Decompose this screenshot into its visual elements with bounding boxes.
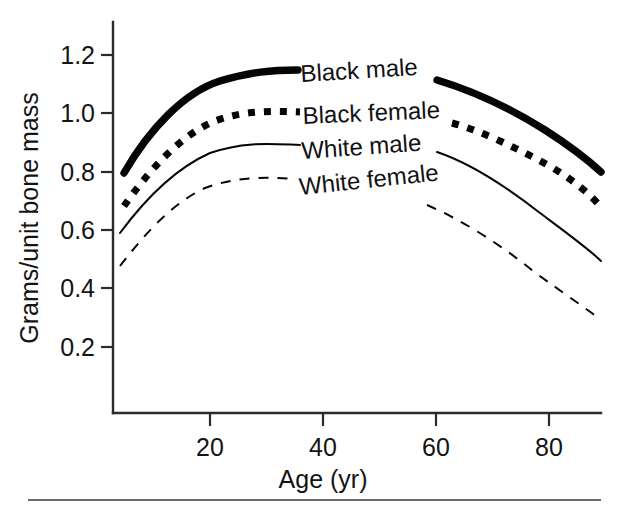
y-tick-label-0.8: 0.8 <box>60 158 95 186</box>
curve-black-female-left <box>124 111 300 206</box>
y-tick-label-1.2: 1.2 <box>60 41 95 69</box>
y-tick-group <box>101 55 113 347</box>
y-axis-title: Grams/unit bone mass <box>15 92 43 344</box>
x-tick-group <box>210 413 549 426</box>
x-axis-title: Age (yr) <box>279 465 368 493</box>
curve-white-male-left <box>120 144 300 233</box>
curve-white-female-left <box>120 178 296 266</box>
x-tick-label-60: 60 <box>422 433 450 461</box>
y-tick-label-group: 1.2 1.0 0.8 0.6 0.4 0.2 <box>60 41 95 361</box>
series-label-white-female: White female <box>298 158 440 199</box>
y-tick-label-1.0: 1.0 <box>60 99 95 127</box>
y-tick-label-0.2: 0.2 <box>60 333 95 361</box>
x-tick-label-group: 20 40 60 80 <box>196 433 563 461</box>
series-label-white-male: White male <box>300 129 422 164</box>
curve-black-male-right <box>437 80 601 172</box>
chart-figure: 1.2 1.0 0.8 0.6 0.4 0.2 20 40 60 80 Age … <box>0 0 632 513</box>
x-tick-label-80: 80 <box>535 433 563 461</box>
x-tick-label-40: 40 <box>309 433 337 461</box>
y-tick-label-0.6: 0.6 <box>60 216 95 244</box>
chart-canvas: 1.2 1.0 0.8 0.6 0.4 0.2 20 40 60 80 Age … <box>0 0 632 513</box>
curve-white-female-right <box>427 205 601 320</box>
curve-black-female-right <box>452 123 601 207</box>
x-tick-label-20: 20 <box>196 433 224 461</box>
series-label-black-female: Black female <box>302 96 440 129</box>
series-annotations: Black male Black female White male White… <box>298 53 441 200</box>
curve-black-male-left <box>124 70 298 173</box>
series-label-black-male: Black male <box>300 53 419 87</box>
y-tick-label-0.4: 0.4 <box>60 274 95 302</box>
curve-white-male-right <box>437 152 601 261</box>
